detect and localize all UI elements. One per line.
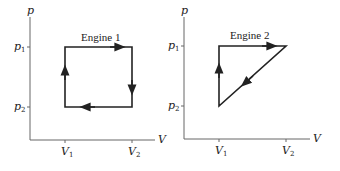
y-axis-label: p (181, 4, 188, 17)
tick-v2: V2 (282, 144, 294, 158)
engine-2-title: Engine 2 (230, 29, 269, 41)
tick-v1: V1 (61, 145, 73, 159)
pv-diagrams: p V p1 p2 V1 V2 Engine 1 p V p1 p2 V1 V2 (0, 0, 340, 171)
tick-v2: V2 (128, 145, 140, 159)
tick-p2: p2 (168, 99, 180, 113)
x-axis-label: V (313, 132, 322, 145)
y-axis-label: p (27, 4, 34, 17)
cycle-rectangle (65, 47, 132, 107)
x-axis-label: V (158, 133, 167, 146)
tick-p1: p1 (168, 39, 180, 53)
engine-1-diagram: p V p1 p2 V1 V2 Engine 1 (14, 4, 167, 159)
tick-v1: V1 (215, 144, 227, 158)
tick-p2: p2 (14, 100, 26, 114)
engine-2-diagram: p V p1 p2 V1 V2 Engine 2 (168, 4, 322, 158)
tick-p1: p1 (14, 40, 26, 54)
engine-1-title: Engine 1 (81, 31, 120, 43)
cycle-triangle (219, 46, 286, 106)
